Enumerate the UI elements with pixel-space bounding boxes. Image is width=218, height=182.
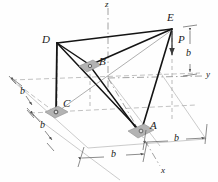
dimension-label-b-left-lower: b	[40, 120, 45, 130]
force-label-P: P	[178, 34, 185, 45]
dimension-b-left-lower	[27, 110, 54, 151]
truss-diagram-svg	[0, 0, 218, 182]
node-label-E: E	[167, 12, 174, 23]
dimension-label-b-bottom-center: b	[111, 149, 116, 159]
ground-plane-grid	[12, 73, 200, 113]
node-label-A: A	[150, 120, 157, 131]
node-label-C: C	[63, 98, 70, 109]
node-label-D: D	[42, 34, 50, 45]
figure-canvas: A B C D E P z y x b b b b b	[0, 0, 218, 182]
dimension-label-b-vertical-right: b	[186, 48, 191, 58]
member-DB	[57, 43, 90, 65]
axis-label-z: z	[105, 0, 109, 9]
dimension-label-b-left-upper: b	[20, 86, 25, 96]
y-axis	[108, 76, 203, 78]
member-AE	[141, 29, 172, 132]
member-DC	[56, 43, 57, 112]
truss-members	[56, 29, 172, 132]
node-label-B: B	[99, 56, 106, 67]
dimension-label-b-bottom-right: b	[174, 133, 179, 143]
axis-label-y: y	[206, 70, 210, 79]
axis-label-x: x	[161, 166, 165, 175]
member-BA	[90, 66, 139, 132]
